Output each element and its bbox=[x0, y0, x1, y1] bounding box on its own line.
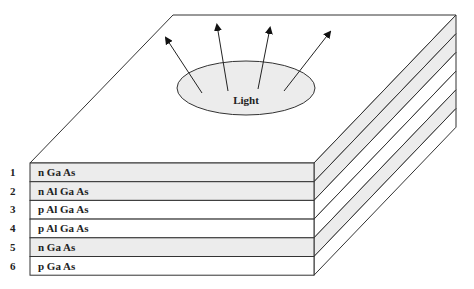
layer-index-label: 4 bbox=[10, 222, 16, 234]
light-label: Light bbox=[233, 94, 259, 106]
layer-index-label: 6 bbox=[10, 260, 16, 272]
layer-index-label: 1 bbox=[10, 166, 16, 178]
layer-material-label: p Al Ga As bbox=[38, 222, 89, 234]
light-emission-region bbox=[177, 61, 315, 115]
layer-index-label: 5 bbox=[10, 241, 16, 253]
layer-material-label: n Ga As bbox=[38, 166, 76, 178]
layer-material-label: n Ga As bbox=[38, 241, 76, 253]
layer-index-label: 2 bbox=[10, 185, 16, 197]
layer-material-label: p Al Ga As bbox=[38, 203, 89, 215]
layer-material-label: n Al Ga As bbox=[38, 185, 89, 197]
layer-stack-diagram: n Ga As1n Al Ga As2p Al Ga As3p Al Ga As… bbox=[0, 0, 474, 289]
front-face: n Ga As1n Al Ga As2p Al Ga As3p Al Ga As… bbox=[10, 163, 314, 275]
layer-material-label: p Ga As bbox=[38, 260, 76, 272]
layer-index-label: 3 bbox=[10, 203, 16, 215]
